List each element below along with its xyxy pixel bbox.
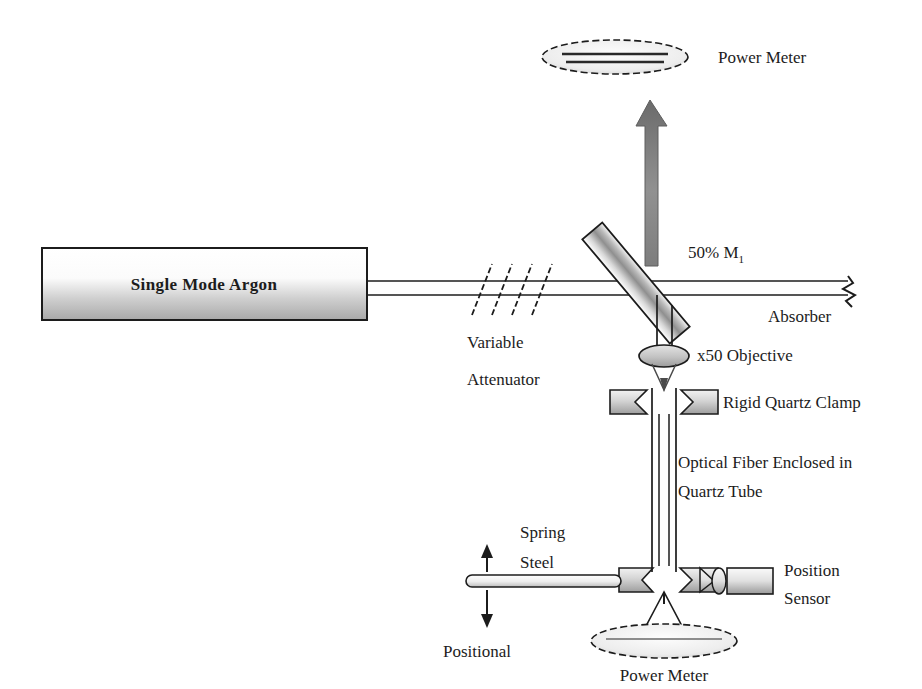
fiber-output-cone [645,592,683,628]
power-meter-bottom-label: Power Meter [620,666,709,685]
objective-lens [639,345,689,392]
attenuator-slash-1 [472,264,492,315]
position-sensor-label-line2: Sensor [784,589,831,608]
spring-steel-label-line1: Spring [520,523,566,542]
position-sensor-label-line1: Position [784,561,840,580]
power-meter-top [542,40,688,74]
objective-lens-body [639,345,689,367]
horizontal-beam [367,281,848,295]
attenuator-slash-2 [492,264,512,315]
position-sensor-lens [712,568,726,594]
positional-arrowhead-up [481,544,493,558]
diagram-canvas: Power Meter Single Mode Argon Variable A… [0,0,922,689]
beamsplitter-plate [582,223,689,344]
laser-source-label: Single Mode Argon [131,275,278,294]
absorber-label: Absorber [768,307,832,326]
positional-arrowhead-down [481,614,493,628]
power-meter-top-label: Power Meter [718,48,807,67]
clamp-block-left [610,390,647,414]
optical-fiber-tube [652,388,676,572]
spring-steel-label-line2: Steel [520,553,554,572]
power-meter-bottom-disc [591,624,737,658]
power-meter-bottom [591,624,737,658]
clamp-block-right [681,390,718,414]
position-sensor-body [727,568,773,594]
positional-label: Positional [443,642,511,661]
power-meter-top-disc [542,40,688,74]
attenuator-slash-4 [532,264,552,315]
objective-label: x50 Objective [697,346,793,365]
optical-setup-diagram: Power Meter Single Mode Argon Variable A… [0,0,922,689]
variable-attenuator [472,264,552,315]
attenuator-label-line2: Attenuator [467,370,540,389]
spring-steel-rod [466,575,621,587]
fiber-label-line1: Optical Fiber Enclosed in [678,453,853,472]
attenuator-slash-3 [512,264,532,315]
spring-steel-body [466,575,621,587]
rigid-quartz-clamp [610,390,718,414]
beamsplitter-label: 50% M1 [688,243,744,265]
lower-clamp-block-left [619,568,653,592]
reflected-beam-up [636,100,667,266]
attenuator-label-line1: Variable [467,333,524,352]
beam-up-arrow [636,100,667,266]
fiber-label-line2: Quartz Tube [678,482,763,501]
beamsplitter-mirror [582,223,689,344]
clamp-label: Rigid Quartz Clamp [723,393,861,412]
